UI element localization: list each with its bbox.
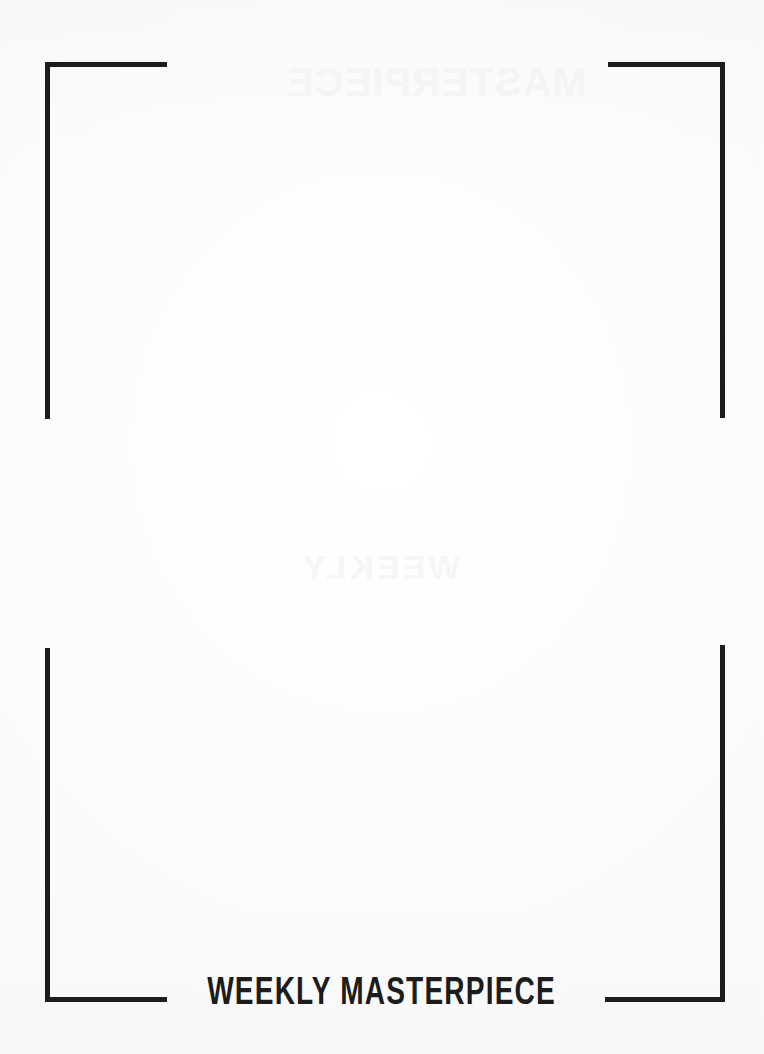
bracket-arm-horizontal: [608, 62, 725, 67]
bracket-arm-vertical: [45, 648, 50, 1002]
bleed-through-ghost-middle: WEEKLY: [300, 548, 460, 587]
caption-block: WEEKLY MASTERPIECE: [0, 974, 764, 1008]
paper-texture-overlay: [0, 0, 764, 1054]
poster-page: MASTERPIECE WEEKLY WEEKLY MASTERPIECE: [0, 0, 764, 1054]
bracket-arm-horizontal: [45, 62, 167, 67]
caption-title: WEEKLY MASTERPIECE: [208, 973, 557, 1009]
bracket-arm-vertical: [720, 645, 725, 1002]
bracket-arm-vertical: [45, 62, 50, 419]
bracket-arm-vertical: [720, 62, 725, 418]
bleed-through-ghost-top: MASTERPIECE: [286, 60, 586, 105]
